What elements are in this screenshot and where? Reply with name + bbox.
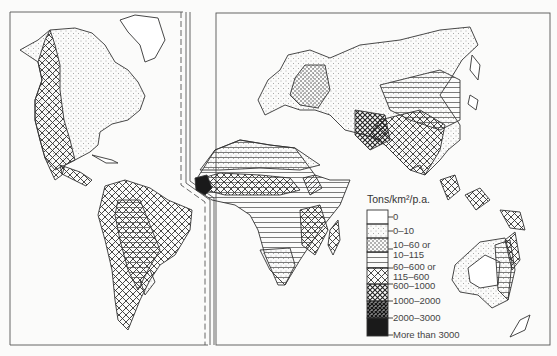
legend-label-5: 1000–2000 (393, 296, 441, 306)
legend-title: Tons/km²/p.a. (367, 193, 430, 205)
legend-label-0: 0 (393, 212, 398, 222)
australasia (440, 175, 530, 337)
legend-swatches (367, 210, 393, 336)
legend-label-4: 600–1000 (393, 281, 435, 291)
north-america (20, 15, 165, 186)
legend-label-1: 0–10 (393, 226, 414, 236)
world-sediment-map (0, 0, 557, 356)
africa (195, 140, 350, 285)
south-america (98, 180, 192, 330)
legend-label-6: 2000–3000 (393, 313, 441, 323)
legend-label-2b: 10–115 (393, 250, 424, 260)
legend-label-7: More than 3000 (393, 330, 460, 340)
